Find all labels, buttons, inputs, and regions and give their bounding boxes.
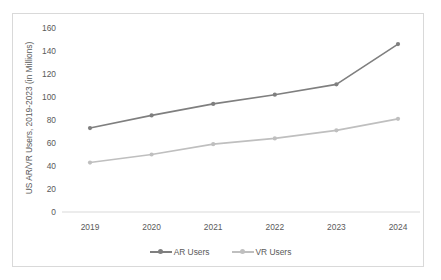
legend-label: VR Users [256, 247, 292, 257]
legend-marker-icon [232, 248, 254, 256]
chart-legend: AR UsersVR Users [0, 245, 441, 259]
y-tick-label: 140 [30, 46, 56, 56]
y-tick-label: 100 [30, 92, 56, 102]
x-tick-label: 2020 [132, 222, 172, 232]
y-tick-label: 0 [30, 207, 56, 217]
x-tick-label: 2019 [70, 222, 110, 232]
x-tick-label: 2022 [255, 222, 295, 232]
legend-item-ar-users[interactable]: AR Users [150, 247, 210, 257]
x-tick-label: 2023 [316, 222, 356, 232]
legend-marker-icon [150, 248, 172, 256]
y-tick-label: 20 [30, 184, 56, 194]
y-tick-label: 40 [30, 161, 56, 171]
legend-item-vr-users[interactable]: VR Users [232, 247, 292, 257]
y-tick-label: 120 [30, 69, 56, 79]
chart-container: US AR/VR Users, 2019-2023 (in Millions) … [0, 0, 441, 280]
y-tick-label: 60 [30, 138, 56, 148]
y-tick-label: 80 [30, 115, 56, 125]
legend-label: AR Users [174, 247, 210, 257]
x-tick-label: 2024 [378, 222, 418, 232]
x-tick-label: 2021 [193, 222, 233, 232]
y-tick-label: 160 [30, 23, 56, 33]
